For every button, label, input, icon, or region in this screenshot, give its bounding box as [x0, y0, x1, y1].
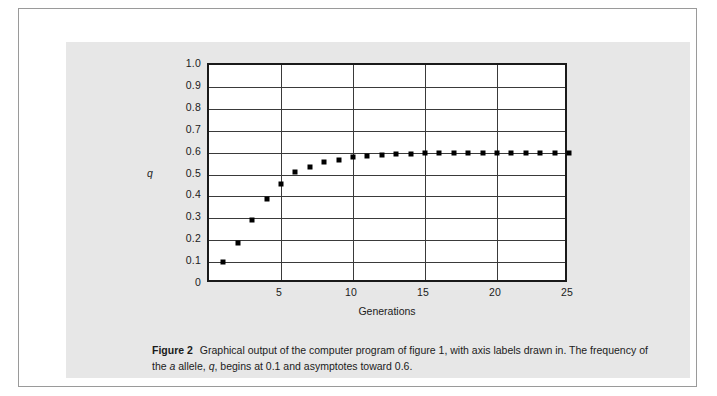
data-point — [351, 155, 356, 160]
data-point — [336, 157, 341, 162]
data-point — [523, 150, 528, 155]
y-axis-title: q — [147, 167, 153, 179]
outer-frame: 1.00.90.80.70.60.50.40.30.20.10 q 510152… — [18, 8, 697, 387]
data-point — [538, 150, 543, 155]
data-point — [466, 150, 471, 155]
data-point — [423, 151, 428, 156]
data-point — [437, 151, 442, 156]
y-axis-tick-label: 0.2 — [161, 232, 201, 244]
data-point — [293, 170, 298, 175]
y-axis-tick-label: 0.3 — [161, 210, 201, 222]
data-point — [552, 150, 557, 155]
data-point — [235, 241, 240, 246]
x-axis-tick-label: 20 — [489, 286, 501, 298]
data-point — [408, 151, 413, 156]
data-points — [209, 65, 565, 280]
data-point — [394, 152, 399, 157]
data-point — [495, 150, 500, 155]
figure-caption: Figure 2Graphical output of the computer… — [152, 342, 652, 374]
data-point — [322, 160, 327, 165]
data-point — [567, 150, 572, 155]
x-axis-tick-label: 10 — [345, 286, 357, 298]
data-point — [451, 150, 456, 155]
y-axis-tick-label: 0.5 — [161, 167, 201, 179]
chart-plot-area — [207, 63, 567, 282]
x-axis-title: Generations — [207, 305, 567, 317]
caption-text-3: , begins at 0.1 and asymptotes toward 0.… — [214, 360, 412, 372]
data-point — [379, 152, 384, 157]
y-axis-tick-label: 0.7 — [161, 123, 201, 135]
data-point — [509, 150, 514, 155]
data-point — [365, 153, 370, 158]
y-axis-tick-label: 0 — [161, 276, 201, 288]
data-point — [279, 182, 284, 187]
figure-screenshot: 1.00.90.80.70.60.50.40.30.20.10 q 510152… — [0, 0, 717, 396]
data-point — [480, 150, 485, 155]
y-axis-tick-label: 1.0 — [161, 57, 201, 69]
x-axis-tick-label: 15 — [417, 286, 429, 298]
x-axis-tick-label: 5 — [276, 286, 282, 298]
plot-box — [207, 63, 567, 282]
y-axis-tick-label: 0.4 — [161, 188, 201, 200]
data-point — [250, 218, 255, 223]
caption-text-2: allele, — [175, 360, 208, 372]
caption-label: Figure 2 — [152, 344, 193, 356]
y-axis-tick-label: 0.8 — [161, 101, 201, 113]
x-axis-tick-label: 25 — [561, 286, 573, 298]
x-axis-ticks: 510152025 — [207, 286, 567, 302]
data-point — [221, 260, 226, 265]
y-axis-tick-label: 0.9 — [161, 79, 201, 91]
data-point — [264, 196, 269, 201]
y-axis-tick-label: 0.1 — [161, 254, 201, 266]
y-axis-ticks: 1.00.90.80.70.60.50.40.30.20.10 — [159, 63, 201, 282]
data-point — [307, 164, 312, 169]
y-axis-tick-label: 0.6 — [161, 145, 201, 157]
